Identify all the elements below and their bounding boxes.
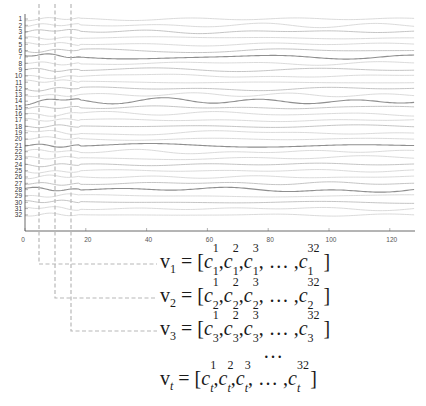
vertical-ellipsis: … <box>263 340 283 363</box>
channel-trace <box>25 23 414 27</box>
signal-traces <box>25 18 414 216</box>
channel-trace <box>25 144 414 148</box>
time-step-marker-3 <box>71 4 157 331</box>
channel-trace <box>25 87 414 91</box>
vector-equation-1: v1 = [c11,c21,c31, … ,c321] <box>160 251 330 275</box>
channel-trace <box>25 175 414 179</box>
channel-trace <box>25 29 414 33</box>
sub-sup: 2t <box>227 371 230 391</box>
sub-sup: 322 <box>308 288 314 308</box>
vector-subscript: 2 <box>170 296 176 310</box>
channel-trace <box>25 18 414 21</box>
channel-trace <box>25 74 414 78</box>
x-axis-ticks: 020406080100120 <box>21 228 397 243</box>
channel-trace <box>25 200 414 203</box>
channel-trace <box>25 137 414 141</box>
sub-sup: 11 <box>213 254 219 274</box>
vector-equation-t: vt = [c1t,c2t,c3t, … ,c32t] <box>160 368 317 392</box>
plot-axes <box>25 14 415 231</box>
x-tick-label: 100 <box>326 236 337 243</box>
channel-trace <box>25 207 414 211</box>
channel-trace <box>25 170 414 173</box>
sub-sup: 323 <box>308 321 314 341</box>
time-step-markers <box>39 4 157 331</box>
sub-sup: 12 <box>213 288 219 308</box>
x-tick-label: 40 <box>145 236 153 243</box>
channel-trace <box>25 106 414 109</box>
channel-trace <box>25 93 414 97</box>
channel-trace <box>25 194 414 197</box>
channel-trace <box>25 213 414 216</box>
sub-sup: 21 <box>233 254 239 274</box>
vector-subscript: 3 <box>170 329 176 343</box>
vector-symbol: v <box>160 367 170 389</box>
vector-symbol: v <box>160 284 170 306</box>
channel-trace <box>25 156 414 160</box>
channel-trace <box>25 187 414 192</box>
sub-sup: 1t <box>210 371 213 391</box>
vector-symbol: v <box>160 250 170 272</box>
channel-trace <box>25 98 414 105</box>
sub-sup: 321 <box>308 254 314 274</box>
channel-trace <box>25 111 414 116</box>
eeg-signal-diagram: 1234567891011121314151617181920212223242… <box>0 0 426 406</box>
vector-subscript: t <box>170 379 173 393</box>
x-tick-label: 0 <box>21 236 25 243</box>
x-tick-label: 20 <box>84 236 92 243</box>
sub-sup: 3t <box>245 371 248 391</box>
sub-sup: 32t <box>297 371 300 391</box>
channel-trace <box>25 68 414 72</box>
channel-label: 32 <box>15 211 23 218</box>
vector-subscript: 1 <box>170 262 176 276</box>
channel-trace <box>25 62 414 66</box>
sub-sup: 23 <box>233 321 239 341</box>
x-tick-label: 120 <box>386 236 397 243</box>
channel-trace <box>25 149 414 153</box>
vector-equation-3: v3 = [c13,c23,c33, … ,c323] <box>160 318 330 342</box>
channel-trace <box>25 43 414 46</box>
sub-sup: 32 <box>253 288 259 308</box>
x-tick-label: 80 <box>267 236 275 243</box>
channel-trace <box>25 49 414 53</box>
channel-trace <box>25 37 414 40</box>
channel-trace <box>25 163 414 167</box>
sub-sup: 13 <box>213 321 219 341</box>
sub-sup: 33 <box>253 321 259 341</box>
vector-symbol: v <box>160 317 170 339</box>
channel-trace <box>25 80 414 83</box>
channel-trace <box>25 182 414 185</box>
channel-trace <box>25 54 414 59</box>
sub-sup: 31 <box>253 254 259 274</box>
channel-trace <box>25 125 414 128</box>
sub-sup: 22 <box>233 288 239 308</box>
channel-trace <box>25 119 414 122</box>
vector-equation-2: v2 = [c12,c22,c32, … ,c322] <box>160 285 330 309</box>
channel-trace <box>25 130 414 135</box>
